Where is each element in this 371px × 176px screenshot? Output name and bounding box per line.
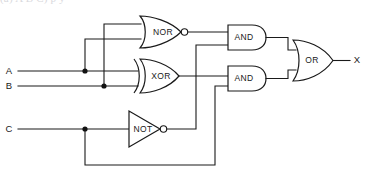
wire-and1-to-or bbox=[266, 38, 296, 51]
input-label-b: B bbox=[6, 80, 12, 91]
junction-dot-c bbox=[82, 126, 87, 131]
xor-gate: XOR bbox=[134, 59, 179, 93]
wire-and2-to-or bbox=[266, 70, 296, 79]
branch-wire-c-to-and2 bbox=[85, 86, 228, 165]
not-gate-label: NOT bbox=[134, 124, 153, 134]
nor-gate: NOR bbox=[140, 16, 188, 48]
junction-dot-a bbox=[82, 68, 87, 73]
and-gate-bottom: AND bbox=[228, 66, 266, 91]
not-output-bubble bbox=[160, 126, 166, 132]
or-gate: OR bbox=[293, 40, 333, 81]
nor-output-bubble bbox=[181, 29, 187, 35]
nor-gate-label: NOR bbox=[153, 27, 173, 37]
and-gate-top-label: AND bbox=[235, 32, 254, 42]
input-label-a: A bbox=[6, 65, 13, 76]
logic-circuit-diagram: (a) A B C) p y bbox=[0, 0, 371, 176]
branch-wire-b-to-nor bbox=[104, 24, 141, 86]
output-label-x: X bbox=[354, 54, 361, 65]
and-gate-bottom-label: AND bbox=[235, 73, 254, 83]
and-gate-top: AND bbox=[228, 25, 266, 50]
or-gate-label: OR bbox=[305, 55, 318, 65]
input-label-c: C bbox=[6, 123, 13, 134]
wire-not-to-and1 bbox=[167, 45, 228, 129]
branch-wire-a-to-nor bbox=[85, 39, 141, 71]
junction-dot-b bbox=[101, 83, 106, 88]
xor-extra-arc bbox=[134, 59, 139, 93]
not-gate: NOT bbox=[129, 111, 167, 147]
circuit-canvas: NOR XOR NOT AND bbox=[0, 0, 371, 176]
xor-gate-label: XOR bbox=[151, 71, 170, 81]
